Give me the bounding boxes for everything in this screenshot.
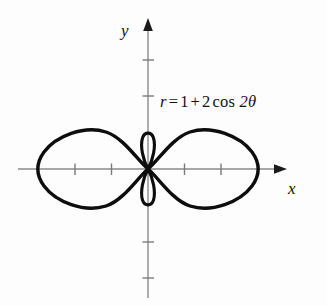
equation-one: 1	[180, 92, 188, 111]
equation-equals: =	[167, 92, 181, 111]
polar-plot-figure: y x	[0, 0, 327, 305]
equation-label: r=1+2cos 2θ	[160, 92, 256, 112]
y-axis-arrowhead	[143, 18, 153, 31]
x-axis-label: x	[287, 179, 296, 198]
y-axis-label: y	[119, 21, 129, 40]
x-axis-arrowhead	[274, 164, 287, 174]
equation-two-theta: 2θ	[240, 92, 257, 111]
equation-two: 2	[202, 92, 210, 111]
equation-r: r	[160, 92, 167, 111]
equation-plus: +	[189, 92, 203, 111]
equation-cos: cos	[211, 92, 236, 111]
